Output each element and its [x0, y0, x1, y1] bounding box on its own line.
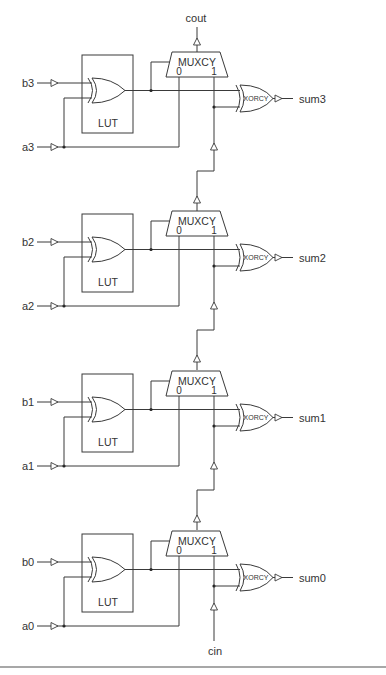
arrow-right-icon — [275, 95, 282, 102]
a-input-label: a3 — [22, 141, 34, 153]
mux-input-1-label: 1 — [211, 225, 217, 236]
xorcy-label: XORCY — [244, 414, 269, 421]
arrow-right-icon — [275, 574, 282, 581]
arrow-right-icon — [51, 623, 58, 630]
stage-3-wiring: LUT MUXCY 0 1 XORCY — [37, 52, 326, 159]
arrow-right-icon — [51, 239, 58, 246]
stage-1: b1 a1 LUT MUXCY 0 — [22, 371, 326, 478]
arrow-right-icon — [51, 463, 58, 470]
xorcy-label: XORCY — [244, 254, 269, 261]
arrow-right-icon — [51, 144, 58, 151]
arrow-right-icon — [51, 399, 58, 406]
stage-0: b0 a0 LUT MUXCY 0 — [22, 531, 326, 641]
muxcy: MUXCY 0 1 — [166, 531, 228, 556]
arrow-up-icon — [194, 196, 201, 203]
carry-chain-adder-diagram: cout b3 a3 LUT — [0, 0, 386, 675]
sum-output-label: sum0 — [299, 572, 326, 584]
stage-3: b3 a3 LUT MUXCY 0 — [22, 52, 326, 159]
mux-input-1-label: 1 — [211, 385, 217, 396]
xorcy-gate: XORCY — [236, 404, 273, 431]
arrow-up-icon — [211, 143, 218, 150]
a-input-label: a0 — [22, 620, 34, 632]
arrow-right-icon — [51, 303, 58, 310]
muxcy: MUXCY 0 1 — [166, 52, 228, 77]
lut-label: LUT — [98, 276, 118, 288]
mux-input-0-label: 0 — [176, 66, 182, 77]
sum-output-label: sum1 — [299, 412, 326, 424]
b-input-label: b0 — [22, 556, 34, 568]
mux-input-0-label: 0 — [176, 545, 182, 556]
lut-label: LUT — [98, 436, 118, 448]
a-input-label: a1 — [22, 460, 34, 472]
cout-output: cout — [186, 12, 207, 52]
xorcy-gate: XORCY — [236, 564, 273, 591]
xor-gate-icon — [88, 557, 125, 582]
stage-1-wiring: LUT MUXCY 0 1 XORCY — [37, 371, 326, 478]
cin-label: cin — [208, 645, 222, 657]
muxcy: MUXCY 0 1 — [166, 211, 228, 236]
stage-2-wiring: LUT MUXCY 0 1 XORCY — [37, 211, 326, 318]
b-input-label: b2 — [22, 236, 34, 248]
lut-label: LUT — [98, 117, 118, 129]
arrow-right-icon — [51, 559, 58, 566]
arrow-right-icon — [275, 254, 282, 261]
stage-2: b2 a2 LUT MUXCY 0 — [22, 211, 326, 318]
mux-input-1-label: 1 — [211, 545, 217, 556]
lut-label: LUT — [98, 596, 118, 608]
xor-gate-icon — [88, 237, 125, 262]
arrow-up-icon — [211, 302, 218, 309]
xorcy-gate: XORCY — [236, 85, 273, 112]
mux-input-0-label: 0 — [176, 385, 182, 396]
arrow-right-icon — [275, 414, 282, 421]
a-input-label: a2 — [22, 300, 34, 312]
arrow-up-icon — [194, 38, 201, 45]
arrow-up-icon — [194, 355, 201, 362]
arrow-up-icon — [211, 462, 218, 469]
xor-gate-icon — [88, 397, 125, 422]
xorcy-label: XORCY — [244, 95, 269, 102]
cout-label: cout — [186, 12, 207, 24]
xorcy-gate: XORCY — [236, 244, 273, 271]
xorcy-label: XORCY — [244, 574, 269, 581]
stage-0-wiring: LUT MUXCY 0 1 XORCY — [37, 531, 326, 641]
mux-input-0-label: 0 — [176, 225, 182, 236]
sum-output-label: sum2 — [299, 252, 326, 264]
sum-output-label: sum3 — [299, 93, 326, 105]
b-input-label: b3 — [22, 77, 34, 89]
mux-input-1-label: 1 — [211, 66, 217, 77]
b-input-label: b1 — [22, 396, 34, 408]
arrow-up-icon — [211, 603, 218, 610]
arrow-right-icon — [51, 80, 58, 87]
muxcy: MUXCY 0 1 — [166, 371, 228, 396]
xor-gate-icon — [88, 78, 125, 103]
arrow-up-icon — [194, 515, 201, 522]
